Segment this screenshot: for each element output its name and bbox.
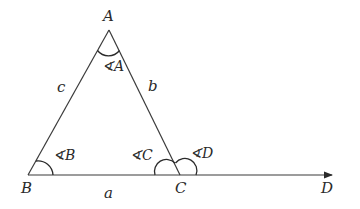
angle-label-d: ∢D <box>190 145 213 161</box>
angle-arc-a <box>98 51 120 56</box>
angle-label-a: ∢A <box>102 58 124 74</box>
vertex-label-a: A <box>101 7 114 25</box>
side-label-a: a <box>104 184 113 202</box>
vertex-label-d: D <box>320 179 333 197</box>
angle-label-b: ∢B <box>53 147 75 163</box>
angle-label-c: ∢C <box>130 147 153 163</box>
side-label-c: c <box>57 78 66 96</box>
angle-arc-c <box>154 159 175 175</box>
triangle-diagram: A B C D c b a ∢A ∢B ∢C ∢D <box>0 0 360 209</box>
vertex-label-b: B <box>20 179 32 197</box>
angle-arc-b <box>36 161 53 175</box>
vertex-label-c: C <box>175 179 187 197</box>
side-label-b: b <box>148 77 158 95</box>
